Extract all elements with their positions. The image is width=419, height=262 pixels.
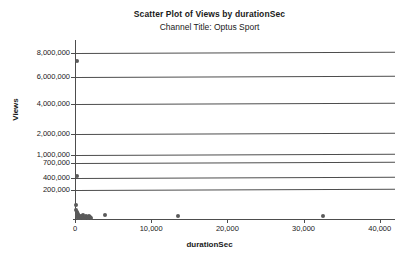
x-axis-title: durationSec (0, 240, 419, 249)
scatter-chart: Scatter Plot of Views by durationSec Cha… (0, 0, 419, 262)
y-axis-title: Views (11, 90, 20, 130)
data-points-layer (0, 0, 419, 262)
data-point (75, 174, 79, 178)
data-point (75, 59, 79, 63)
data-point (74, 203, 78, 207)
data-point (321, 214, 325, 218)
data-point (176, 214, 180, 218)
data-point (103, 213, 107, 217)
data-point (89, 216, 93, 220)
